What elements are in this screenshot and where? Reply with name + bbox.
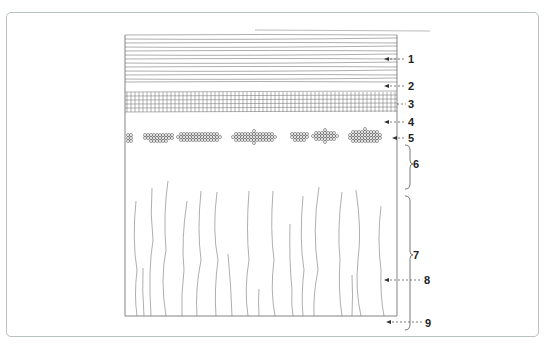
label-3: 3 xyxy=(408,98,414,110)
cell-cluster-row xyxy=(127,128,382,145)
brace-6 xyxy=(405,145,413,189)
label-leaders xyxy=(386,59,424,322)
label-8: 8 xyxy=(424,274,430,286)
vertical-fibers xyxy=(134,181,384,316)
label-7: 7 xyxy=(413,249,419,261)
labels: 1 2 3 4 5 6 7 8 9 xyxy=(408,53,431,329)
horizontal-lines-layer xyxy=(125,35,397,83)
label-6: 6 xyxy=(413,158,419,170)
grid-layer xyxy=(125,91,397,112)
diagram-box xyxy=(125,30,430,316)
label-5: 5 xyxy=(408,132,414,144)
label-9: 9 xyxy=(425,317,431,329)
brace-7 xyxy=(405,196,413,330)
label-1: 1 xyxy=(408,53,414,65)
label-4: 4 xyxy=(408,116,415,128)
tissue-layer-diagram: 1 2 3 4 5 6 7 8 9 xyxy=(0,0,545,344)
label-2: 2 xyxy=(408,80,414,92)
